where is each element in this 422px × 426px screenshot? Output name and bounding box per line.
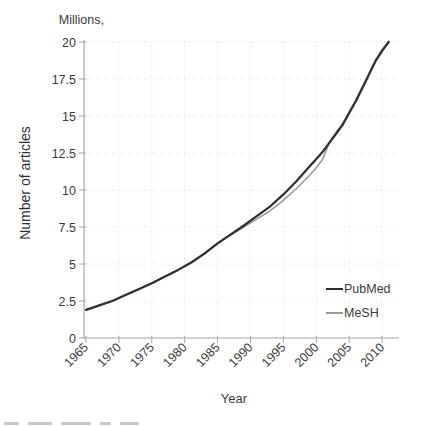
pubmed-mesh-growth-chart: 02.557.51012.51517.520196519701975198019… bbox=[0, 0, 422, 426]
y-tick-label: 20 bbox=[62, 36, 76, 50]
x-tick-label: 1995 bbox=[259, 340, 289, 370]
x-tick-label: 1970 bbox=[94, 340, 124, 370]
x-tick-label: 1980 bbox=[160, 340, 190, 370]
pubmed-line bbox=[86, 42, 389, 310]
y-tick-label: 15 bbox=[62, 110, 76, 124]
legend-label-mesh: MeSH bbox=[344, 306, 379, 320]
y-tick-label: 5 bbox=[69, 258, 76, 272]
x-axis-title: Year bbox=[221, 391, 247, 406]
x-tick-label: 2010 bbox=[358, 340, 388, 370]
mesh-line-swatch bbox=[326, 312, 343, 314]
mesh-line bbox=[86, 41, 389, 310]
legend-label-pubmed: PubMed bbox=[344, 282, 391, 296]
x-tick-label: 1990 bbox=[226, 340, 256, 370]
y-tick-label: 0 bbox=[69, 332, 76, 346]
legend-item-mesh: MeSH bbox=[326, 301, 391, 325]
unit-label: Millions, bbox=[40, 13, 104, 27]
pubmed-line-swatch bbox=[326, 288, 343, 290]
legend: PubMed MeSH bbox=[326, 277, 391, 325]
x-tick-label: 1975 bbox=[127, 340, 157, 370]
x-tick-label: 1985 bbox=[193, 340, 223, 370]
line-chart-canvas: 02.557.51012.51517.520196519701975198019… bbox=[0, 0, 422, 426]
y-tick-label: 10 bbox=[62, 184, 76, 198]
legend-item-pubmed: PubMed bbox=[326, 277, 391, 301]
series-lines bbox=[86, 41, 389, 310]
x-tick-label: 2000 bbox=[292, 340, 322, 370]
x-tick-label: 2005 bbox=[325, 340, 355, 370]
y-tick-label: 2.5 bbox=[59, 295, 76, 309]
y-tick-label: 7.5 bbox=[59, 221, 76, 235]
x-tick-label: 1965 bbox=[62, 340, 92, 370]
y-axis-title: Number of articles bbox=[17, 126, 33, 240]
cropped-caption-fragment bbox=[4, 422, 139, 425]
y-tick-label: 17.5 bbox=[52, 73, 76, 87]
y-tick-label: 12.5 bbox=[52, 147, 76, 161]
